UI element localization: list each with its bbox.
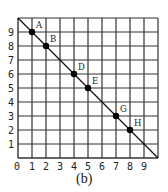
x-tick-label: 8 (127, 161, 133, 172)
data-point-label: B (50, 34, 56, 44)
y-tick-label: 4 (8, 97, 14, 108)
x-tick-label: 3 (57, 161, 63, 172)
y-tick-label: 8 (8, 41, 14, 52)
x-tick-label: 7 (113, 161, 119, 172)
y-tick-label: 3 (8, 111, 14, 122)
data-point-marker (127, 127, 133, 133)
y-tick-label: 6 (8, 69, 14, 80)
data-point-label: H (134, 118, 141, 128)
data-point-marker (71, 71, 77, 77)
x-tick-label: 9 (141, 161, 147, 172)
data-point-label: D (78, 62, 85, 72)
data-point-label: E (92, 76, 98, 86)
y-tick-label: 5 (8, 83, 14, 94)
data-point-label: A (35, 20, 43, 30)
data-point-marker (29, 29, 35, 35)
x-tick-label: 1 (29, 161, 35, 172)
data-point-label: G (120, 104, 127, 114)
coordinate-grid-chart: 0123456789123456789 ABDEGH (0, 0, 168, 192)
x-tick-label: 0 (14, 161, 20, 172)
y-tick-label: 1 (8, 139, 14, 150)
y-tick-label: 7 (8, 55, 14, 66)
data-point-marker (43, 43, 49, 49)
data-point-marker (113, 113, 119, 119)
x-tick-label: 2 (43, 161, 49, 172)
data-point-marker (85, 85, 91, 91)
figure-caption: (b) (76, 171, 92, 187)
y-tick-label: 2 (8, 125, 14, 136)
x-tick-label: 6 (99, 161, 105, 172)
y-tick-label: 9 (8, 27, 14, 38)
axis-tick-labels: 0123456789123456789 (8, 27, 147, 173)
